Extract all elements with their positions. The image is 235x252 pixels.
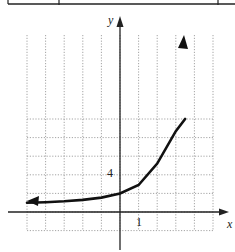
x-axis-label: x — [226, 217, 233, 231]
exponential-curve — [27, 119, 185, 203]
y-axis-arrow-icon — [117, 16, 124, 27]
y-tick-label: 4 — [107, 166, 113, 180]
x-tick-label: 1 — [136, 215, 142, 229]
curve-right-arrow-icon — [178, 35, 188, 49]
exponential-graph: y x 4 1 — [0, 0, 235, 252]
table-fragment — [8, 0, 235, 5]
curve-left-arrow-icon — [27, 196, 39, 206]
axes — [8, 16, 229, 250]
y-axis-label: y — [107, 13, 114, 27]
x-axis-arrow-icon — [219, 209, 229, 216]
